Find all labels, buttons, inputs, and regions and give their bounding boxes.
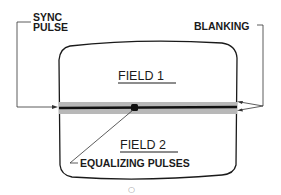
blanking-leader: [257, 25, 263, 106]
blanking-arrowhead-top: [237, 101, 243, 104]
equalizing-label: EQUALIZING PULSES: [80, 157, 190, 169]
field1-label: FIELD 1: [118, 69, 164, 83]
page-mark: ○: [128, 185, 135, 194]
sync-label-line2: PULSE: [33, 21, 68, 33]
blanking-arrowhead-bottom: [237, 109, 243, 112]
blanking-leader-top: [240, 102, 263, 106]
field2-label: FIELD 2: [120, 138, 166, 152]
equalizing-leader: [70, 110, 133, 163]
equalizing-pulse-marker: [131, 104, 138, 111]
sync-pulse-leader: [17, 22, 55, 107]
retrace-line: [59, 107, 237, 108]
blanking-leader-bottom: [240, 106, 263, 110]
blanking-label: BLANKING: [194, 20, 249, 32]
tv-field-diagram: SYNC PULSE BLANKING FIELD 1 FIELD 2 EQUA…: [0, 0, 281, 195]
sync-pulse-arrowhead: [52, 105, 58, 109]
